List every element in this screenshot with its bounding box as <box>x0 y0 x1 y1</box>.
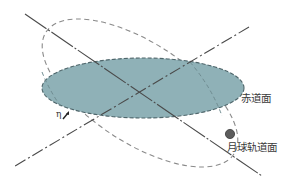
angle-label: η <box>56 109 61 119</box>
lunar-orbit-plane-label: 月球轨道面 <box>227 141 277 153</box>
moon-icon <box>225 129 234 138</box>
moon-orbit-diagram: η 赤道面 月球轨道面 <box>0 0 289 188</box>
equatorial-plane-label: 赤道面 <box>241 92 271 104</box>
equatorial-plane-ellipse <box>42 58 244 118</box>
